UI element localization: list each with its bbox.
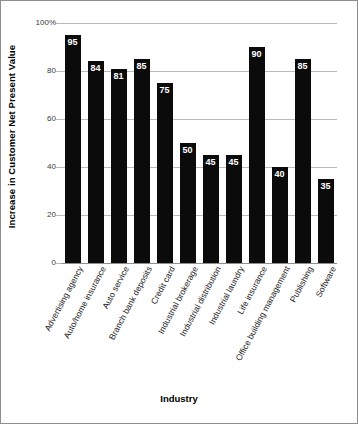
x-axis-tick-label-text: Software [314,265,338,299]
bar-value-label: 40 [272,169,288,180]
bar-value-label: 84 [88,63,104,74]
bar-value-label: 45 [226,157,242,168]
bar-value-label: 90 [249,49,265,60]
x-axis-title: Industry [1,393,357,404]
bar-group[interactable]: 95 [65,23,81,263]
bar-group[interactable]: 35 [318,23,334,263]
y-axis-tick-label: 40 [47,163,56,171]
y-axis-tick-label: 20 [47,211,56,219]
bar-value-label: 81 [111,71,127,82]
y-axis-tick-label: 60 [47,115,56,123]
x-axis-title-text: Industry [160,393,197,404]
x-axis-tick-labels: Advertising agencyAuto/home insuranceAut… [61,265,337,385]
x-axis-tick-label-text: Publishing [288,265,314,304]
bar-value-label: 85 [295,61,311,72]
bar-value-label: 75 [157,85,173,96]
bar-group[interactable]: 50 [180,23,196,263]
y-axis-title-text: Increase in Customer Net Present Value [7,44,18,227]
y-axis-tick-mark [56,263,61,264]
chart-figure: Increase in Customer Net Present Value 0… [0,0,358,424]
y-axis-title: Increase in Customer Net Present Value [1,1,23,271]
bar-value-label: 45 [203,157,219,168]
y-axis-tick-label: 0 [52,259,56,267]
bar-value-label: 85 [134,61,150,72]
bar[interactable]: 95 [65,35,81,263]
bar-value-label: 50 [180,145,196,156]
x-axis-tick-label-text: Branch bank deposits [107,265,153,341]
bar-value-label: 95 [65,37,81,48]
y-axis-tick-label: 100% [36,19,56,27]
y-axis-tick-label: 80 [47,67,56,75]
